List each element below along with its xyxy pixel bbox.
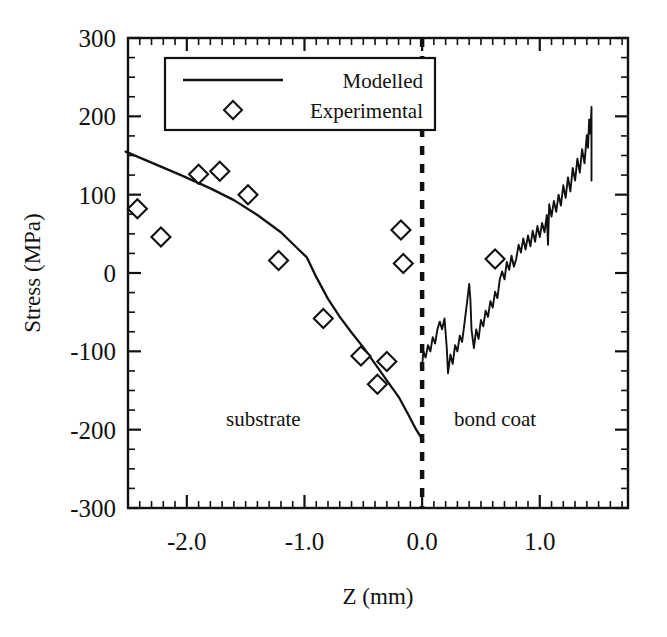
experimental-marker [128, 199, 147, 218]
experimental-marker [351, 347, 370, 366]
experimental-marker [377, 352, 396, 371]
experimental-marker [394, 254, 413, 273]
y-tick-label: 100 [79, 182, 117, 209]
y-tick-label: -200 [70, 417, 116, 444]
legend-label: Modelled [343, 69, 424, 93]
x-tick-label: 0.0 [406, 528, 437, 555]
y-tick-label: 200 [79, 103, 117, 130]
y-tick-label: 300 [79, 25, 117, 52]
chart-svg: -2.0-1.00.01.0 -300-200-1000100200300 su… [0, 0, 667, 637]
modelled-curve [126, 152, 423, 440]
experimental-marker [151, 227, 170, 246]
y-tick-label: 0 [104, 260, 117, 287]
region-label: bond coat [454, 407, 536, 431]
legend-label: Experimental [310, 99, 423, 123]
y-tick-label: -100 [70, 338, 116, 365]
x-tick-label: -1.0 [285, 528, 325, 555]
series-lines [126, 107, 592, 439]
experimental-marker [239, 185, 258, 204]
x-tick-label: 1.0 [524, 528, 555, 555]
modelled-curve [422, 107, 591, 373]
experimental-marker [391, 220, 410, 239]
x-tick-label: -2.0 [167, 528, 207, 555]
x-tick-labels: -2.0-1.00.01.0 [167, 528, 555, 555]
region-label: substrate [226, 407, 301, 431]
legend-box: ModelledExperimental [165, 58, 435, 130]
region-annotations: substratebond coat [226, 407, 536, 431]
y-tick-labels: -300-200-1000100200300 [70, 25, 116, 522]
experimental-marker [269, 251, 288, 270]
y-axis-label: Stress (MPa) [20, 213, 45, 332]
chart-figure: -2.0-1.00.01.0 -300-200-1000100200300 su… [0, 0, 667, 637]
x-axis-label: Z (mm) [343, 584, 414, 609]
experimental-marker [486, 249, 505, 268]
experimental-marker [314, 309, 333, 328]
experimental-marker [210, 162, 229, 181]
y-tick-label: -300 [70, 495, 116, 522]
